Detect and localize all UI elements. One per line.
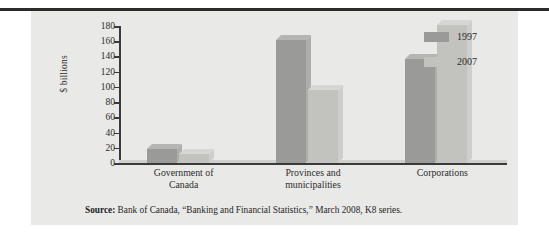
x-group-label-line: municipalities [248, 179, 377, 191]
legend-label: 2007 [457, 56, 477, 67]
y-tick-label: 120 [101, 67, 115, 76]
x-group-label-line: Government of [119, 167, 248, 179]
x-group-label-line: Canada [119, 179, 248, 191]
x-group-label-line: Corporations [378, 167, 507, 179]
bar-2007-1 [179, 154, 209, 163]
figure-container: $ billions 020406080100120140160180 Gove… [0, 0, 549, 237]
bar-face [276, 40, 306, 163]
y-tick-label: 140 [101, 52, 115, 61]
bar-1997-1 [147, 149, 177, 163]
y-tick-mark [114, 87, 120, 89]
source-body: Bank of Canada, “Banking and Financial S… [115, 205, 402, 215]
y-tick-label: 100 [101, 82, 115, 91]
x-group-label: Provinces andmunicipalities [248, 167, 377, 190]
bar-side-face [338, 85, 343, 163]
y-axis-label: $ billions [59, 29, 69, 119]
legend-swatch-1997 [424, 32, 449, 42]
bar-1997-2 [276, 40, 306, 163]
legend-swatch-2007 [424, 57, 449, 67]
bar-face [179, 154, 209, 163]
bar-top-face [276, 35, 311, 40]
bar-top-face [437, 20, 472, 25]
source-note: Source: Bank of Canada, “Banking and Fin… [85, 205, 402, 215]
y-axis-tick-labels: 020406080100120140160180 [85, 22, 115, 162]
y-tick-label: 180 [101, 22, 115, 31]
y-tick-mark [114, 72, 120, 74]
y-tick-mark [114, 26, 120, 28]
y-tick-mark [114, 102, 120, 104]
bar-face [308, 90, 338, 163]
chart-legend: 19972007 [424, 31, 477, 81]
chart-panel: $ billions 020406080100120140160180 Gove… [31, 11, 518, 225]
bar-top-face [179, 149, 214, 154]
legend-label: 1997 [457, 31, 477, 42]
y-tick-mark [114, 56, 120, 58]
plot-area: $ billions 020406080100120140160180 Gove… [31, 11, 518, 186]
bar-top-face [147, 144, 182, 149]
y-tick-mark [114, 148, 120, 150]
legend-item-1997: 1997 [424, 31, 477, 42]
y-tick-mark [114, 41, 120, 43]
x-group-label-line: Provinces and [248, 167, 377, 179]
bar-top-face [308, 85, 343, 90]
bar-face [147, 149, 177, 163]
legend-item-2007: 2007 [424, 56, 477, 67]
x-group-label: Government ofCanada [119, 167, 248, 190]
y-tick-mark [114, 163, 120, 165]
y-tick-label: 160 [101, 37, 115, 46]
y-tick-mark [114, 133, 120, 135]
source-label: Source: [85, 205, 115, 215]
y-tick-mark [114, 117, 120, 119]
bar-2007-2 [308, 90, 338, 163]
x-group-label: Corporations [378, 167, 507, 179]
